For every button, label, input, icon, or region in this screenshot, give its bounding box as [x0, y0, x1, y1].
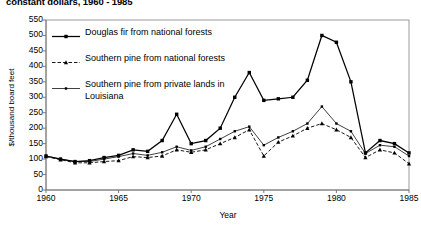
data-point-marker: [204, 148, 208, 152]
data-point-marker: [175, 146, 177, 148]
data-point-marker: [233, 96, 236, 99]
data-point-marker: [146, 154, 148, 156]
data-point-marker: [262, 99, 265, 102]
data-point-marker: [407, 151, 410, 154]
data-point-marker: [291, 134, 295, 138]
data-point-marker: [45, 155, 47, 157]
data-point-marker: [379, 144, 381, 146]
legend-label: Southern pine from national forests: [82, 53, 225, 65]
data-point-marker: [321, 105, 323, 107]
data-point-marker: [161, 151, 163, 153]
data-point-marker: [392, 151, 396, 155]
data-point-marker: [190, 142, 193, 145]
data-point-marker: [218, 141, 222, 145]
data-point-marker: [320, 121, 324, 125]
data-point-marker: [74, 160, 76, 162]
data-point-marker: [277, 97, 280, 100]
legend-marker-icon: [52, 80, 82, 91]
data-point-marker: [349, 135, 353, 139]
data-point-marker: [234, 130, 236, 132]
data-point-marker: [219, 138, 221, 140]
data-point-marker: [233, 135, 237, 139]
data-point-marker: [263, 144, 265, 146]
data-point-marker: [59, 158, 61, 160]
data-point-marker: [190, 149, 192, 151]
data-point-marker: [103, 158, 105, 160]
data-point-marker: [350, 130, 352, 132]
data-point-marker: [408, 155, 410, 157]
data-point-marker: [248, 71, 251, 74]
legend-item[interactable]: Southern pine from private lands in Loui…: [52, 79, 232, 104]
data-point-marker: [248, 125, 250, 127]
data-point-marker: [205, 146, 207, 148]
legend-label: Southern pine from private lands in Loui…: [82, 79, 232, 102]
data-point-marker: [320, 34, 323, 37]
data-point-marker: [276, 140, 280, 144]
data-point-marker: [219, 126, 222, 129]
data-point-marker: [306, 79, 309, 82]
chart-legend: Douglas fir from national forestsSouther…: [52, 27, 232, 105]
data-point-marker: [277, 136, 279, 138]
data-point-marker: [175, 148, 179, 152]
data-point-marker: [132, 152, 134, 154]
data-point-marker: [349, 80, 352, 83]
legend-label: Douglas fir from national forests: [82, 27, 212, 39]
legend-item[interactable]: Douglas fir from national forests: [52, 27, 232, 52]
data-point-marker: [175, 113, 178, 116]
data-point-marker: [335, 41, 338, 44]
data-point-marker: [364, 152, 366, 154]
data-point-marker: [378, 139, 381, 142]
data-point-marker: [204, 139, 207, 142]
data-point-marker: [335, 122, 337, 124]
data-point-marker: [291, 96, 294, 99]
data-point-marker: [131, 148, 134, 151]
legend-marker-icon: [52, 54, 82, 65]
data-point-marker: [306, 122, 308, 124]
data-point-marker: [378, 148, 382, 152]
legend-marker-icon: [52, 28, 82, 39]
data-point-marker: [117, 155, 119, 157]
series-line: [46, 107, 409, 162]
data-point-marker: [393, 142, 396, 145]
data-point-marker: [334, 128, 338, 132]
legend-item[interactable]: Southern pine from national forests: [52, 53, 232, 78]
data-point-marker: [146, 150, 149, 153]
data-point-marker: [160, 139, 163, 142]
data-point-marker: [292, 130, 294, 132]
data-point-marker: [88, 160, 90, 162]
data-point-marker: [393, 146, 395, 148]
chart-container: constant dollars, 1960 - 1985 $/thousand…: [0, 0, 421, 227]
